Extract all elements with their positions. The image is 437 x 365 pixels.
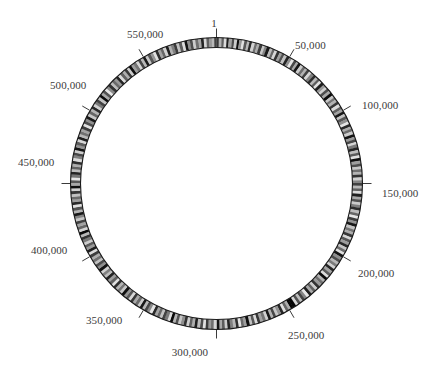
genome-band — [213, 319, 216, 329]
axis-tick-label: 1 — [211, 18, 217, 29]
axis-tick-label: 100,000 — [362, 100, 398, 111]
axis-tick-label: 450,000 — [18, 157, 54, 168]
axis-tick-label: 400,000 — [31, 245, 67, 256]
axis-tick-label: 200,000 — [358, 268, 394, 279]
genome-band — [70, 183, 80, 186]
axis-tick-label: 550,000 — [127, 29, 163, 40]
axis-tick-mark — [343, 106, 350, 110]
axis-tick-mark — [139, 49, 143, 56]
axis-tick-label: 350,000 — [86, 315, 122, 326]
axis-tick-mark — [139, 310, 143, 317]
genome-ring-svg — [0, 0, 437, 365]
axis-tick-label: 300,000 — [172, 347, 208, 358]
axis-tick-mark — [290, 310, 294, 317]
genome-band — [352, 177, 362, 181]
tick-layer — [62, 29, 372, 339]
genome-band — [352, 180, 362, 183]
genome-band — [214, 37, 217, 47]
circular-genome-map: 150,000100,000150,000200,000250,000300,0… — [0, 0, 437, 365]
axis-tick-mark — [82, 257, 89, 261]
axis-tick-label: 50,000 — [295, 40, 326, 51]
axis-tick-label: 250,000 — [288, 330, 324, 341]
axis-tick-label: 150,000 — [382, 188, 418, 199]
genome-band — [216, 319, 219, 329]
axis-tick-mark — [290, 49, 294, 56]
axis-tick-mark — [82, 106, 89, 110]
band-layer — [70, 37, 362, 329]
axis-tick-label: 500,000 — [50, 80, 86, 91]
axis-tick-mark — [343, 257, 350, 261]
genome-band — [71, 185, 81, 188]
ring-inner-circle — [81, 48, 353, 320]
